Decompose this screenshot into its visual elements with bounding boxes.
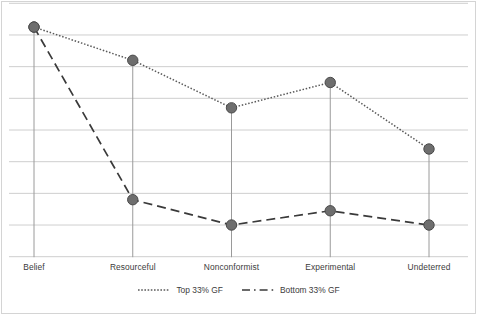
legend-item-bottom-33-gf[interactable]: Bottom 33% GF: [241, 286, 340, 294]
chart-container: Belief Resourceful Nonconformist Experim…: [0, 0, 477, 315]
legend-item-top-33-gf[interactable]: Top 33% GF: [137, 286, 223, 294]
horizontal-gridlines: [9, 3, 468, 256]
legend-label-bottom-33-gf: Bottom 33% GF: [280, 286, 340, 294]
data-point-marker: [29, 22, 39, 32]
legend-swatch-dotted-icon: [137, 287, 171, 293]
data-point-marker: [128, 194, 138, 204]
legend-label-top-33-gf: Top 33% GF: [176, 286, 223, 294]
data-point-marker: [226, 220, 236, 230]
data-point-marker: [325, 206, 335, 216]
data-point-marker: [128, 55, 138, 65]
data-point-marker: [424, 144, 434, 154]
chart-legend: Top 33% GF Bottom 33% GF: [0, 283, 477, 297]
data-point-marker: [424, 220, 434, 230]
chart-plot-area: [0, 0, 477, 315]
legend-swatch-dashed-icon: [241, 287, 275, 293]
data-point-marker: [325, 77, 335, 87]
data-point-marker: [226, 103, 236, 113]
